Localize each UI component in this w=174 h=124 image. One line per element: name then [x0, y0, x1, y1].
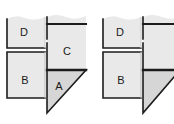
region-a-left[interactable]: A [47, 70, 86, 113]
geometry-diagram: D C B A [0, 0, 174, 124]
region-d-left[interactable]: D [7, 16, 45, 48]
region-a-right[interactable] [143, 70, 174, 113]
region-c-left[interactable]: C [47, 15, 86, 69]
region-a-right-triangle [143, 70, 174, 113]
region-c-right[interactable] [143, 15, 174, 69]
region-label-a-left: A [55, 80, 63, 92]
diagram-canvas: D C B A [0, 0, 174, 124]
region-a-left-triangle [47, 70, 86, 113]
region-d-right[interactable]: D [103, 16, 141, 48]
region-label-d-left: D [20, 26, 28, 38]
region-label-b-right: B [117, 74, 125, 86]
region-label-b-left: B [21, 74, 29, 86]
region-b-right[interactable]: B [103, 52, 141, 98]
region-label-d-right: D [116, 26, 124, 38]
right-figure: D B [103, 15, 174, 113]
region-b-left[interactable]: B [7, 52, 45, 98]
left-figure: D C B A [7, 15, 86, 113]
region-label-c-left: C [63, 45, 71, 57]
